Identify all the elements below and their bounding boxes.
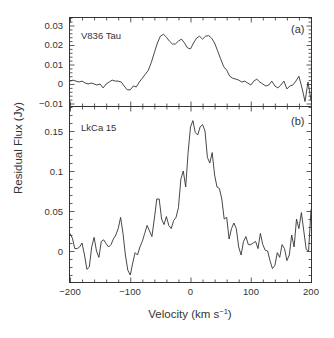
xtick-label: −100 — [119, 286, 140, 297]
a-ytick-label: 0.02 — [45, 39, 64, 50]
x-axis-title: Velocity (km s−1) — [148, 307, 232, 320]
lkca15-spectrum-line — [70, 121, 311, 275]
xtick-label: 200 — [303, 286, 319, 297]
b-ytick-label: 0.15 — [45, 126, 64, 137]
panel-b-tag: (b) — [291, 115, 304, 127]
a-ytick-label: 0.03 — [45, 20, 64, 31]
panel-b-name: LkCa 15 — [81, 122, 116, 133]
panel-a-tag: (a) — [291, 23, 304, 35]
b-ytick-label: 0.1 — [50, 166, 63, 177]
xtick-label: −200 — [59, 286, 80, 297]
panel-a-name: V836 Tau — [81, 30, 121, 41]
a-ytick-label: −0.01 — [39, 98, 63, 109]
xtick-label: 100 — [243, 286, 259, 297]
b-ytick-label: 0.05 — [45, 206, 64, 217]
xtick-label: 0 — [188, 286, 193, 297]
b-ytick-label: 0 — [58, 246, 63, 257]
a-ytick-label: 0 — [58, 78, 63, 89]
v836-tau-spectrum-line — [70, 34, 311, 101]
a-ytick-label: 0.01 — [45, 59, 64, 70]
figure: 0.03 0.02 0.01 0 −0.01 0.15 0.1 0.05 0 −… — [0, 0, 334, 338]
y-axis-title: Residual Flux (Jy) — [12, 102, 24, 194]
